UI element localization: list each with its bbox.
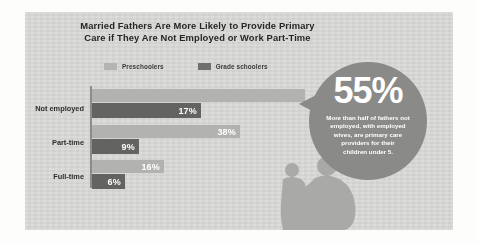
callout-line-1: More than half of fathers not [318,114,418,122]
bar-part-time-grade-schoolers: 9% [92,139,139,154]
category-label-part-time: Part-time [10,138,84,147]
category-label-full-time: Full-time [10,172,84,181]
bar-value-full-time-preschoolers: 16% [141,162,160,172]
callout-line-3: wives, are primary care [318,131,418,139]
infographic-page: Married Fathers Are More Likely to Provi… [0,0,477,243]
bar-not-employed-preschoolers [92,89,305,102]
callout-value: 55% [309,73,427,109]
callout-description: More than half of fathers not employed, … [318,114,418,156]
bar-value-part-time-preschoolers: 38% [217,127,236,137]
bar-value-not-employed-grade-schoolers: 17% [178,106,197,116]
bar-full-time-preschoolers: 16% [92,160,164,173]
bar-part-time-preschoolers: 38% [92,125,240,138]
callout-bubble: 55% More than half of fathers not employ… [309,62,427,180]
callout-line-2: employed, with employed [318,122,418,130]
callout-line-5: children under 5. [318,148,418,156]
bar-value-full-time-grade-schoolers: 6% [108,177,121,187]
bar-full-time-grade-schoolers: 6% [92,174,125,189]
callout-line-4: providers for their [318,139,418,147]
bar-not-employed-grade-schoolers: 17% [92,103,201,118]
category-label-not-employed: Not employed [10,104,84,113]
bar-value-part-time-grade-schoolers: 9% [122,142,135,152]
